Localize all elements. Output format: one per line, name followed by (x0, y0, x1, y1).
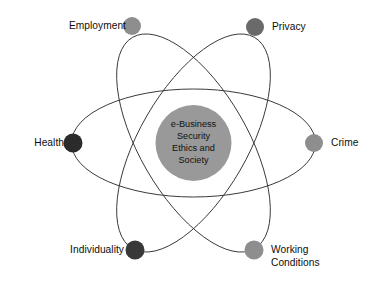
node-dot-working-conditions[interactable] (245, 241, 264, 260)
node-label-crime: Crime (331, 137, 387, 150)
core-text-line-2: Security (177, 131, 211, 141)
node-label-individuality: Individuality (62, 244, 124, 257)
core-group: e-Business Security Ethics and Society (156, 105, 232, 181)
core-text-line-4: Society (178, 155, 209, 165)
node-dot-health[interactable] (64, 134, 83, 153)
node-label-health: Health (22, 137, 64, 150)
atom-diagram-container: e-Business Security Ethics and Society E… (0, 0, 388, 294)
node-dot-crime[interactable] (305, 134, 323, 152)
core-text-line-3: Ethics and (172, 143, 215, 153)
node-label-working-conditions: Working Conditions (271, 244, 351, 269)
core-text-line-1: e-Business (171, 119, 217, 129)
node-label-privacy: Privacy (272, 21, 352, 34)
node-dot-privacy[interactable] (246, 18, 264, 36)
node-dot-individuality[interactable] (126, 241, 145, 260)
node-label-employment: Employment (56, 20, 126, 33)
